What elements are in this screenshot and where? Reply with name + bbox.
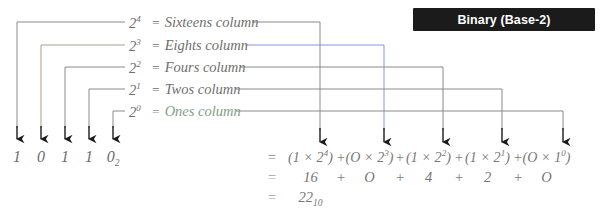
equation-result-value: 22 — [299, 189, 314, 205]
place-name-2: Twos column — [165, 81, 241, 98]
place-power-16: 24 — [129, 14, 149, 32]
place-exponent-8: 3 — [136, 37, 141, 47]
term-1-coef: O — [527, 150, 537, 165]
place-equals-8: = — [149, 38, 165, 54]
place-equals-4: = — [149, 60, 165, 76]
term-4-coef: 1 — [411, 150, 418, 165]
binary-place-value-diagram: Binary (Base-2) 24 = Sixteens column 23 … — [0, 0, 600, 223]
place-exponent-16: 4 — [136, 14, 141, 24]
equation-value-4: 4 — [402, 169, 455, 186]
place-equals-1: = — [149, 104, 165, 120]
term-8-close: ) — [389, 150, 394, 165]
term-4-times: × — [421, 150, 431, 165]
equation-line-expansion: =(1 × 24)+(O × 23)+(1 × 22)+(1 × 21)+(O … — [268, 148, 573, 166]
place-name-8: Eights column — [165, 37, 248, 54]
equation-term-1: (O × 10) — [520, 148, 573, 166]
right-connector-8s — [245, 45, 384, 142]
equation-value-2: 2 — [461, 169, 514, 186]
equation-result-subscript: 10 — [313, 198, 323, 208]
term-16-times: × — [303, 150, 313, 165]
binary-digit-2: 1 — [53, 148, 77, 166]
left-connector-1s — [113, 111, 125, 139]
left-connector-8s — [41, 45, 125, 139]
place-power-1: 20 — [129, 103, 149, 121]
term-2-coef: 1 — [470, 150, 477, 165]
term-16-base: 2 — [317, 150, 324, 165]
place-exponent-2: 1 — [136, 81, 141, 91]
right-connector-16s — [252, 22, 320, 142]
place-row-ones: 20 = Ones column — [129, 102, 241, 121]
equation-value-8: O — [343, 169, 396, 186]
binary-base-badge-label: Binary (Base-2) — [457, 13, 550, 27]
term-1-times: × — [541, 150, 551, 165]
term-2-base: 2 — [494, 150, 501, 165]
term-4-base: 2 — [435, 150, 442, 165]
place-name-1: Ones column — [165, 103, 241, 120]
equation-equals-2: = — [268, 169, 284, 186]
place-name-16: Sixteens column — [165, 14, 259, 31]
place-row-sixteens: 24 = Sixteens column — [129, 13, 258, 32]
place-exponent-1: 0 — [136, 103, 141, 113]
place-name-4: Fours column — [165, 59, 246, 76]
place-power-8: 23 — [129, 37, 149, 55]
right-connector-2s — [236, 89, 502, 142]
right-connector-4s — [240, 67, 443, 142]
equation-equals-1: = — [268, 150, 284, 166]
equation-term-16: (1 × 24) — [284, 148, 337, 166]
place-exponent-4: 2 — [136, 59, 141, 69]
equation-value-1: O — [520, 169, 573, 186]
term-16-coef: 1 — [293, 150, 300, 165]
left-connector-2s — [89, 89, 125, 139]
equation-term-8: (O × 23) — [343, 148, 396, 166]
place-row-fours: 22 = Fours column — [129, 58, 246, 77]
equation-term-4: (1 × 22) — [402, 148, 455, 166]
binary-base-badge: Binary (Base-2) — [413, 8, 595, 31]
binary-digit-1: 0 — [29, 148, 53, 166]
term-8-coef: O — [350, 150, 360, 165]
equation-value-16: 16 — [284, 169, 337, 186]
place-power-2: 21 — [129, 81, 149, 99]
equation-equals-3: = — [268, 189, 284, 206]
place-row-eights: 23 = Eights column — [129, 36, 248, 55]
binary-digit-4: 02 — [101, 148, 125, 168]
binary-digit-4-value: 0 — [107, 148, 115, 165]
equation-line-values: =16+O+4+2+O — [268, 169, 573, 186]
equation-term-2: (1 × 21) — [461, 148, 514, 166]
term-8-times: × — [364, 150, 374, 165]
term-16-close: ) — [328, 150, 333, 165]
place-row-twos: 21 = Twos column — [129, 80, 241, 99]
left-connector-4s — [65, 67, 125, 139]
binary-digit-0: 1 — [5, 148, 29, 166]
place-equals-2: = — [149, 82, 165, 98]
place-equals-16: = — [149, 15, 165, 31]
right-connector-1s — [236, 111, 563, 142]
equation-result: 2210 — [284, 189, 337, 208]
binary-digit-3: 1 — [77, 148, 101, 166]
equation-line-result: =2210 — [268, 189, 337, 208]
left-connector-16s — [17, 22, 125, 139]
term-4-close: ) — [446, 150, 451, 165]
place-power-4: 22 — [129, 59, 149, 77]
term-2-times: × — [480, 150, 490, 165]
term-2-close: ) — [505, 150, 510, 165]
binary-base-subscript: 2 — [115, 158, 120, 168]
term-1-close: ) — [566, 150, 571, 165]
